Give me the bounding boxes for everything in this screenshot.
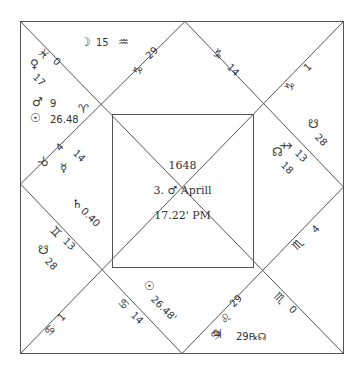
north-node-icon: ☊ xyxy=(272,146,283,158)
moon-degree: 15 xyxy=(96,38,109,48)
aquarius-icon: ♒ xyxy=(118,36,129,48)
moon-icon: ☽ xyxy=(80,36,91,48)
south-node-icon: ☋ xyxy=(308,118,319,130)
sun-degree: 26.48 xyxy=(50,115,79,125)
venus-icon: ♀ xyxy=(30,58,39,70)
mars-degree: 9 xyxy=(50,99,56,109)
mars-icon: ♂ xyxy=(32,96,43,108)
sun-icon: ☉ xyxy=(30,112,41,124)
chart-time: 17.22' PM xyxy=(154,209,211,222)
chart-center-info: 1648 3. ♂ Aprill 17.22' PM xyxy=(112,114,253,267)
chart-date: 3. ♂ Aprill xyxy=(153,184,211,197)
saturn-icon: ♄ xyxy=(72,198,83,210)
south-node-icon: ☋ xyxy=(38,244,49,256)
sun-icon: ☉ xyxy=(144,280,155,292)
chart-year: 1648 xyxy=(169,159,197,172)
jupiter-degree: 29℞☊ xyxy=(236,332,267,342)
mercury-icon: ☿ xyxy=(60,162,67,174)
aries-icon: ♈ xyxy=(78,103,89,115)
